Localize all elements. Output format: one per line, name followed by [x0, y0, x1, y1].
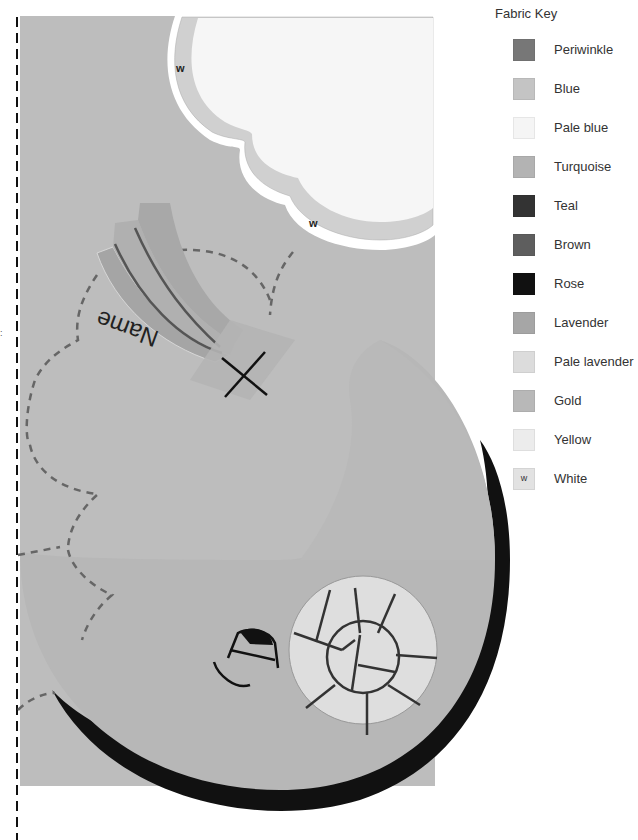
fabric-swatch	[513, 351, 535, 373]
white-mark-2: w	[308, 217, 318, 229]
fabric-label: Gold	[554, 390, 581, 412]
fabric-label: Turquoise	[554, 156, 611, 178]
fabric-swatch	[513, 429, 535, 451]
fabric-swatch	[513, 195, 535, 217]
fabric-label: Periwinkle	[554, 39, 613, 61]
fabric-swatch	[513, 273, 535, 295]
fabric-key-item: Pale lavender	[495, 351, 638, 390]
white-mark: w	[514, 473, 534, 483]
fabric-label: Rose	[554, 273, 584, 295]
fabric-label: White	[554, 468, 587, 490]
fabric-key-item: Blue	[495, 78, 638, 117]
fabric-key: Fabric Key PeriwinkleBluePale blueTurquo…	[495, 6, 638, 507]
white-mark-1: w	[175, 62, 185, 74]
fabric-swatch	[513, 117, 535, 139]
fabric-key-item: Pale blue	[495, 117, 638, 156]
fabric-key-item: Periwinkle	[495, 39, 638, 78]
fabric-label: Brown	[554, 234, 591, 256]
fabric-label: Yellow	[554, 429, 591, 451]
fabric-swatch	[513, 390, 535, 412]
fabric-swatch	[513, 78, 535, 100]
fabric-swatch	[513, 39, 535, 61]
fabric-label: Blue	[554, 78, 580, 100]
fabric-key-item: Lavender	[495, 312, 638, 351]
fabric-label: Pale blue	[554, 117, 608, 139]
fabric-key-item: Rose	[495, 273, 638, 312]
fabric-swatch	[513, 156, 535, 178]
fabric-key-item: Gold	[495, 390, 638, 429]
fabric-key-item: Brown	[495, 234, 638, 273]
fabric-swatch	[513, 312, 535, 334]
clipped-margin-text: :	[0, 328, 6, 338]
fabric-swatch: w	[513, 468, 535, 490]
fabric-swatch	[513, 234, 535, 256]
fabric-key-item: Yellow	[495, 429, 638, 468]
fabric-key-item: Teal	[495, 195, 638, 234]
fabric-key-title: Fabric Key	[495, 6, 638, 21]
fabric-key-item: wWhite	[495, 468, 638, 507]
fabric-key-item: Turquoise	[495, 156, 638, 195]
fabric-key-list: PeriwinkleBluePale blueTurquoiseTealBrow…	[495, 39, 638, 507]
fabric-label: Pale lavender	[554, 351, 634, 373]
fabric-label: Teal	[554, 195, 578, 217]
fabric-label: Lavender	[554, 312, 608, 334]
